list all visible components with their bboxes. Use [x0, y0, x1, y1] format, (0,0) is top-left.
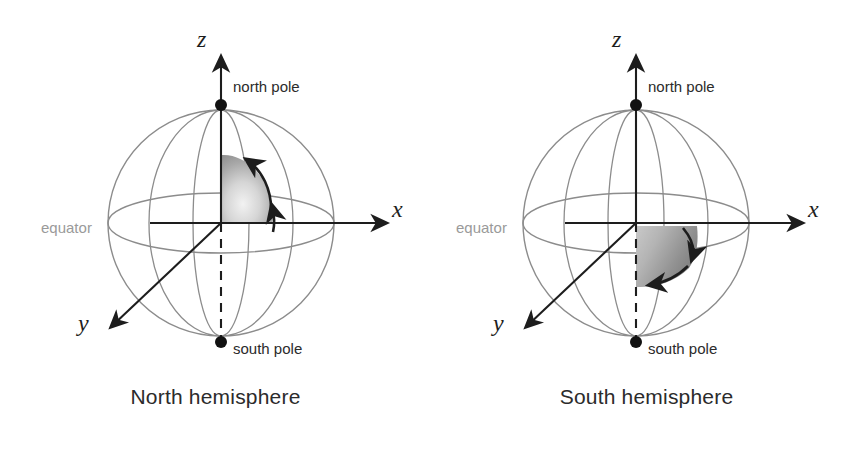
- sphere-coordinate-diagram: z x y north pole south pole equator Nort…: [0, 0, 862, 452]
- panel-caption-north: North hemisphere: [0, 385, 431, 409]
- south-pole-label: south pole: [233, 340, 302, 357]
- y-axis-label: y: [78, 310, 89, 337]
- y-axis-line: [112, 223, 221, 326]
- equator-label: equator: [41, 219, 92, 236]
- south-pole-label: south pole: [648, 340, 717, 357]
- north-pole-label: north pole: [233, 78, 300, 95]
- y-axis-line: [527, 223, 636, 326]
- south-pole-marker: [630, 336, 642, 348]
- panel-caption-south: South hemisphere: [431, 385, 862, 409]
- equator-label: equator: [456, 219, 507, 236]
- y-axis-label: y: [493, 310, 504, 337]
- z-axis-label: z: [197, 26, 206, 53]
- north-pole-marker: [215, 99, 227, 111]
- x-axis-label: x: [392, 196, 403, 223]
- z-axis-label: z: [612, 26, 621, 53]
- panel-south-hemisphere: z x y north pole south pole equator Sout…: [431, 0, 862, 452]
- south-pole-marker: [215, 336, 227, 348]
- panel-north-hemisphere: z x y north pole south pole equator Nort…: [0, 0, 431, 452]
- north-pole-label: north pole: [648, 78, 715, 95]
- north-pole-marker: [630, 99, 642, 111]
- x-axis-label: x: [808, 196, 819, 223]
- shaded-lune-region: [221, 155, 273, 223]
